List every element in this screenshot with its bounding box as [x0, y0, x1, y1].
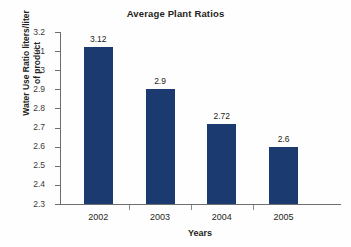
bar — [84, 47, 113, 204]
y-axis-tick-label: 2.8 — [5, 104, 45, 113]
y-axis-tick-label: 2.4 — [5, 180, 45, 189]
y-axis-tick — [55, 185, 60, 186]
y-axis-tick — [55, 166, 60, 167]
y-axis-tick — [55, 89, 60, 90]
y-axis-line — [60, 32, 61, 205]
y-axis-tick — [55, 128, 60, 129]
bar — [269, 147, 298, 204]
x-axis-tick — [253, 205, 254, 210]
bar-value-label: 2.6 — [259, 135, 309, 144]
bar — [207, 124, 236, 204]
y-axis-tick-label: 3.1 — [5, 47, 45, 56]
bar-chart: Average Plant Ratios Water Use Ratio lit… — [0, 0, 351, 247]
bar-value-label: 2.9 — [135, 77, 185, 86]
y-axis-tick-label: 2.7 — [5, 123, 45, 132]
bar — [146, 89, 175, 204]
x-axis-tick-label: 2003 — [130, 212, 190, 222]
y-axis-tick-label: 3 — [5, 66, 45, 75]
y-axis-tick — [55, 70, 60, 71]
bar-value-label: 3.12 — [73, 35, 123, 44]
x-axis-tick-label: 2005 — [254, 212, 314, 222]
chart-title: Average Plant Ratios — [0, 8, 351, 19]
y-axis-tick — [55, 204, 60, 205]
x-axis-tick — [191, 205, 192, 210]
y-axis-tick-label: 2.5 — [5, 161, 45, 170]
plot-area: 2.32.42.52.62.72.82.933.13.2 3.122.92.72… — [60, 32, 341, 205]
x-axis-line — [60, 204, 341, 205]
y-axis-tick-label: 2.3 — [5, 200, 45, 209]
x-axis-tick-label: 2004 — [192, 212, 252, 222]
y-axis-title-line-1: Water Use Ratio liters/liter — [21, 10, 32, 116]
y-axis-tick-label: 2.6 — [5, 142, 45, 151]
y-axis-tick — [55, 51, 60, 52]
bar-value-label: 2.72 — [197, 112, 247, 121]
x-axis-tick — [129, 205, 130, 210]
y-axis-tick — [55, 147, 60, 148]
y-axis-tick — [55, 108, 60, 109]
x-axis-tick-label: 2002 — [68, 212, 128, 222]
y-axis-tick-label: 3.2 — [5, 28, 45, 37]
y-axis-tick-label: 2.9 — [5, 85, 45, 94]
y-axis-tick — [55, 32, 60, 33]
x-axis-title: Years — [60, 228, 340, 238]
